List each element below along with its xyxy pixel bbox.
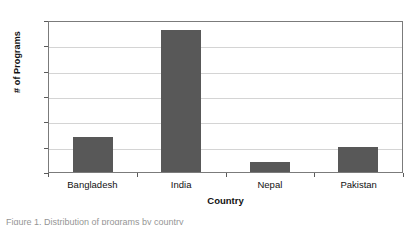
bar-slot [226,22,314,172]
x-tick-label-nepal: Nepal [226,179,315,190]
bars-layer [49,22,402,172]
x-axis-tick-labels: BangladeshIndiaNepalPakistan [48,179,403,190]
x-tick-label-bangladesh: Bangladesh [48,179,137,190]
bar-slot [314,22,402,172]
x-tick-mark [226,173,227,177]
bar-bangladesh[interactable] [73,137,113,172]
y-tick-mark [44,72,48,73]
x-tick-mark [48,173,49,177]
y-axis-title: # of Programs [12,0,22,127]
y-tick-mark [44,148,48,149]
x-tick-label-india: India [137,179,226,190]
y-tick-mark [44,46,48,47]
bar-nepal[interactable] [250,162,290,172]
plot-area [48,21,403,173]
x-tick-label-pakistan: Pakistan [314,179,403,190]
bar-india[interactable] [161,30,201,172]
bar-pakistan[interactable] [338,147,378,172]
y-tick-mark [44,21,48,22]
bar-chart-figure: # of Programs 051015202530 BangladeshInd… [0,0,417,225]
x-axis-title: Country [48,195,403,206]
y-tick-mark [44,97,48,98]
bar-slot [49,22,137,172]
bar-slot [137,22,225,172]
x-tick-mark [403,173,404,177]
x-tick-mark [314,173,315,177]
y-tick-mark [44,122,48,123]
figure-caption: Figure 1. Distribution of programs by co… [6,217,411,225]
x-tick-mark [137,173,138,177]
